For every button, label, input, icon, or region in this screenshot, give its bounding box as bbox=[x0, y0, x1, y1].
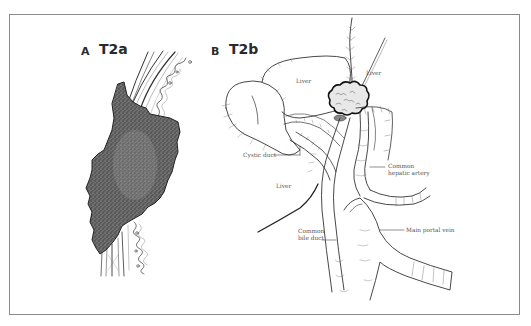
liver-lower-edge bbox=[258, 184, 318, 232]
anatomical-illustration bbox=[0, 0, 531, 326]
panel-a-illustration bbox=[86, 51, 191, 276]
label-common-bile-duct-line1: Common bbox=[298, 228, 324, 235]
label-liver-upper-left: Liver bbox=[296, 78, 311, 85]
label-common-hepatic-artery-line2: hepatic artery bbox=[388, 170, 430, 177]
label-common-bile-duct-line2: bile duct bbox=[298, 235, 324, 242]
label-main-portal-vein: Main portal vein bbox=[406, 227, 455, 234]
label-cystic-duct: Cystic duct bbox=[243, 152, 276, 159]
tumor-mass-t2b bbox=[328, 81, 369, 115]
label-common-hepatic-artery-line1: Common bbox=[388, 163, 430, 170]
label-liver-lower: Liver bbox=[276, 183, 291, 190]
label-common-hepatic-artery: Common hepatic artery bbox=[388, 163, 430, 177]
gallbladder bbox=[226, 81, 300, 155]
panel-b-illustration bbox=[222, 18, 452, 300]
label-common-bile-duct: Common bile duct bbox=[298, 228, 324, 242]
label-liver-upper-right: Liver bbox=[366, 70, 381, 77]
